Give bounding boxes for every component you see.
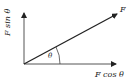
angle-arc (56, 47, 60, 64)
force-label: F (120, 6, 126, 14)
sin-component-text: F sin θ (3, 9, 12, 36)
force-vector-arrow (24, 14, 117, 64)
theta-label: θ (48, 53, 52, 60)
sin-component-label: F sin θ (4, 9, 12, 36)
cos-component-label: F cos θ (95, 71, 124, 79)
